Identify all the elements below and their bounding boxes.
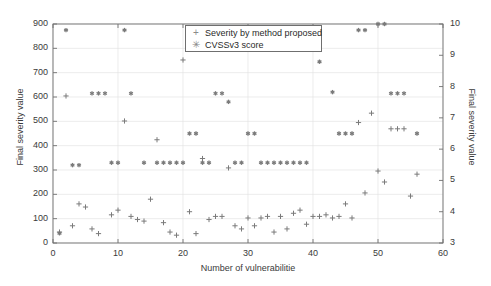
data-point: [284, 226, 289, 231]
data-point: [187, 209, 192, 214]
data-point: [168, 161, 172, 165]
data-point: [116, 161, 120, 165]
data-series-layer: [57, 22, 420, 238]
data-point: [349, 215, 354, 220]
data-point: [76, 201, 81, 206]
data-point: [110, 161, 114, 165]
data-point: [356, 120, 361, 125]
data-point: [363, 28, 367, 32]
data-point: [214, 91, 218, 95]
data-point: [115, 208, 120, 213]
data-point: [258, 215, 263, 220]
data-point: [181, 161, 185, 165]
data-point: [415, 131, 419, 135]
data-point: [245, 215, 250, 220]
data-point: [207, 161, 211, 165]
data-point: [357, 28, 361, 32]
data-point: [239, 226, 244, 231]
data-point: [343, 201, 348, 206]
data-point: [142, 161, 146, 165]
data-point: [180, 57, 185, 62]
data-point: [362, 190, 367, 195]
data-point: [298, 161, 302, 165]
data-point: [70, 223, 75, 228]
data-point: [175, 161, 179, 165]
data-point: [292, 161, 296, 165]
data-point: [369, 111, 374, 116]
data-point: [123, 28, 127, 32]
data-point: [389, 91, 393, 95]
data-point: [344, 131, 348, 135]
data-point: [266, 161, 270, 165]
data-point: [220, 91, 224, 95]
data-point: [350, 131, 354, 135]
data-point: [304, 222, 309, 227]
data-point: [109, 212, 114, 217]
data-point: [272, 161, 276, 165]
data-point: [174, 233, 179, 238]
data-point: [154, 137, 159, 142]
data-point: [265, 214, 270, 219]
data-point: [97, 91, 101, 95]
data-point: [246, 131, 250, 135]
data-point: [318, 60, 322, 64]
data-point: [253, 131, 257, 135]
data-point: [232, 223, 237, 228]
data-point: [201, 161, 205, 165]
data-point: [310, 214, 315, 219]
data-point: [193, 231, 198, 236]
data-point: [337, 131, 341, 135]
data-point: [259, 161, 263, 165]
data-point: [252, 223, 257, 228]
data-point: [200, 156, 205, 161]
data-point: [317, 214, 322, 219]
data-point: [278, 214, 283, 219]
data-point: [71, 163, 75, 167]
data-point: [388, 126, 393, 131]
data-point: [96, 231, 101, 236]
data-point: [122, 118, 127, 123]
data-point: [402, 91, 406, 95]
data-point: [401, 126, 406, 131]
data-point: [167, 229, 172, 234]
data-point: [336, 214, 341, 219]
data-point: [395, 126, 400, 131]
legend-label: CVSSv3 score: [205, 39, 264, 51]
series-proposed: [57, 57, 420, 237]
data-point: [188, 131, 192, 135]
data-point: [141, 219, 146, 224]
data-point: [331, 90, 335, 94]
data-point: [89, 226, 94, 231]
data-point: [240, 161, 244, 165]
chart-legend: +Severity by method proposed✳CVSSv3 scor…: [185, 25, 322, 52]
chart-figure: Final severity value Final severity valu…: [0, 0, 491, 286]
data-point: [103, 91, 107, 95]
data-point: [155, 161, 159, 165]
data-point: [135, 217, 140, 222]
data-point: [396, 91, 400, 95]
data-point: [330, 215, 335, 220]
plus-marker-icon: +: [190, 27, 202, 39]
data-point: [162, 161, 166, 165]
data-point: [227, 100, 231, 104]
data-point: [129, 91, 133, 95]
legend-label: Severity by method proposed: [205, 27, 322, 39]
data-point: [194, 131, 198, 135]
data-point: [161, 220, 166, 225]
data-point: [219, 214, 224, 219]
data-point: [148, 197, 153, 202]
data-point: [285, 161, 289, 165]
data-point: [291, 211, 296, 216]
data-point: [83, 204, 88, 209]
data-point: [77, 163, 81, 167]
asterisk-marker-icon: ✳: [190, 39, 202, 51]
data-point: [213, 214, 218, 219]
data-point: [323, 212, 328, 217]
data-point: [414, 172, 419, 177]
data-point: [233, 161, 237, 165]
data-point: [375, 168, 380, 173]
data-point: [206, 217, 211, 222]
data-point: [382, 179, 387, 184]
data-point: [63, 93, 68, 98]
series-cvss: [58, 22, 419, 236]
